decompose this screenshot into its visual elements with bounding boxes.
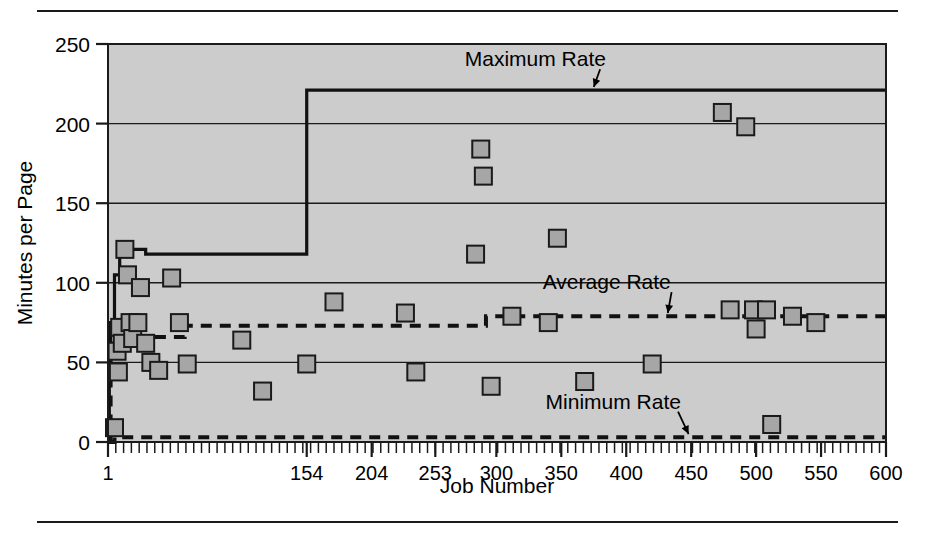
ytick-label: 150 xyxy=(55,192,90,215)
data-point-marker xyxy=(163,270,180,287)
data-point-marker xyxy=(549,230,566,247)
data-point-marker xyxy=(763,416,780,433)
ytick-labels-group: 050100150200250 xyxy=(55,33,90,454)
data-point-marker xyxy=(298,355,315,372)
xtick-label: 154 xyxy=(290,462,323,484)
data-point-marker xyxy=(129,314,146,331)
data-point-marker xyxy=(807,314,824,331)
data-point-marker xyxy=(758,301,775,318)
y-axis-title: Minutes per Page xyxy=(13,161,36,326)
data-point-marker xyxy=(540,314,557,331)
xtick-label: 450 xyxy=(674,462,707,484)
data-point-marker xyxy=(407,363,424,380)
xtick-label: 550 xyxy=(804,462,837,484)
data-point-marker xyxy=(179,355,196,372)
ytick-label: 50 xyxy=(67,351,90,374)
data-point-marker xyxy=(483,378,500,395)
data-point-marker xyxy=(467,246,484,263)
xtick-label: 600 xyxy=(869,462,902,484)
ytick-label: 200 xyxy=(55,113,90,136)
data-point-marker xyxy=(472,141,489,158)
data-point-marker xyxy=(503,308,520,325)
ytick-label: 250 xyxy=(55,33,90,56)
xtick-label: 500 xyxy=(739,462,772,484)
data-point-marker xyxy=(110,363,127,380)
figure-container: 1154204253300350400450500550600 05010015… xyxy=(0,0,930,533)
xtick-label: 1 xyxy=(102,462,113,484)
data-point-marker xyxy=(737,118,754,135)
data-point-marker xyxy=(644,355,661,372)
data-point-marker xyxy=(748,320,765,337)
data-point-marker xyxy=(576,373,593,390)
ytick-label: 100 xyxy=(55,272,90,295)
data-point-marker xyxy=(116,241,133,258)
scatter-chart: 1154204253300350400450500550600 05010015… xyxy=(0,0,930,533)
data-point-marker xyxy=(150,362,167,379)
annotation-label: Average Rate xyxy=(543,270,671,293)
xtick-label: 204 xyxy=(355,462,388,484)
annotation-label: Minimum Rate xyxy=(546,390,681,413)
x-axis-title: Job Number xyxy=(440,474,554,497)
xtick-label: 400 xyxy=(610,462,643,484)
data-point-marker xyxy=(784,308,801,325)
data-point-marker xyxy=(171,314,188,331)
data-point-marker xyxy=(722,301,739,318)
chart-plot-wrapper: 1154204253300350400450500550600 05010015… xyxy=(0,0,930,533)
ytick-label: 0 xyxy=(78,431,90,454)
data-point-marker xyxy=(714,104,731,121)
data-point-marker xyxy=(233,332,250,349)
data-point-marker xyxy=(254,383,271,400)
ytick-marks-group xyxy=(96,44,108,442)
data-point-marker xyxy=(475,168,492,185)
annotation-label: Maximum Rate xyxy=(465,47,606,70)
data-point-marker xyxy=(397,305,414,322)
data-point-marker xyxy=(137,335,154,352)
data-point-marker xyxy=(325,293,342,310)
data-point-marker xyxy=(132,279,149,296)
minor-xticks-group xyxy=(108,442,880,453)
